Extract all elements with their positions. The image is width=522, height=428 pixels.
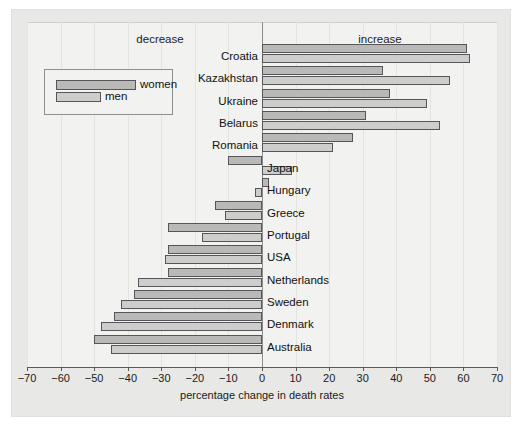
x-tick [94,367,95,371]
bar-men-hungary [255,188,262,197]
x-tick [463,367,464,371]
bar-men-greece [225,211,262,220]
gridline [463,22,464,367]
bar-women-netherlands [168,268,262,277]
bar-men-romania [262,143,333,152]
category-label-australia: Australia [267,341,312,353]
bar-women-australia [94,335,262,344]
bar-women-japan [228,156,262,165]
category-label-romania: Romania [212,139,258,151]
category-label-ukraine: Ukraine [218,95,258,107]
bar-men-croatia [262,54,470,63]
annotation-decrease: decrease [100,33,220,45]
gridline [430,22,431,367]
chart-figure: CroatiaKazakhstanUkraineBelarusRomaniaJa… [0,0,522,428]
bar-women-sweden [134,290,262,299]
category-label-sweden: Sweden [267,296,309,308]
x-tick-label: 70 [477,372,517,384]
category-label-croatia: Croatia [221,50,258,62]
x-tick [363,367,364,371]
category-label-hungary: Hungary [267,184,310,196]
x-tick [228,367,229,371]
bar-men-ukraine [262,99,427,108]
x-tick [61,367,62,371]
bar-women-greece [215,201,262,210]
legend-label-men: men [105,90,127,102]
gridline [27,22,28,367]
bar-women-portugal [168,223,262,232]
bar-men-belarus [262,121,440,130]
legend-label-women: women [140,78,177,90]
category-label-portugal: Portugal [267,229,310,241]
bar-women-ukraine [262,89,390,98]
x-tick [161,367,162,371]
category-label-denmark: Denmark [267,318,314,330]
bar-women-belarus [262,111,366,120]
x-tick [128,367,129,371]
bar-women-kazakhstan [262,66,383,75]
gridline [396,22,397,367]
x-axis-label: percentage change in death rates [27,389,497,401]
x-tick [329,367,330,371]
x-tick [430,367,431,371]
bar-women-denmark [114,312,262,321]
x-tick [396,367,397,371]
legend: women men [44,69,173,115]
x-tick [195,367,196,371]
bar-men-sweden [121,300,262,309]
annotation-increase: increase [320,33,440,45]
bar-men-usa [165,255,262,264]
gridline [497,22,498,367]
category-label-belarus: Belarus [219,117,258,129]
category-label-netherlands: Netherlands [267,274,329,286]
bar-men-denmark [101,322,262,331]
x-tick [27,367,28,371]
bar-men-portugal [202,233,262,242]
bar-men-kazakhstan [262,76,450,85]
bar-women-croatia [262,44,467,53]
category-label-usa: USA [267,251,291,263]
x-tick [497,367,498,371]
bar-women-romania [262,133,353,142]
legend-swatch-men [56,92,101,102]
x-tick [296,367,297,371]
bar-men-australia [111,345,262,354]
x-tick [262,367,263,371]
bar-women-usa [168,245,262,254]
category-label-greece: Greece [267,207,305,219]
legend-swatch-women [56,80,136,90]
bar-men-netherlands [138,278,262,287]
category-label-kazakhstan: Kazakhstan [198,72,258,84]
category-label-japan: Japan [267,162,298,174]
